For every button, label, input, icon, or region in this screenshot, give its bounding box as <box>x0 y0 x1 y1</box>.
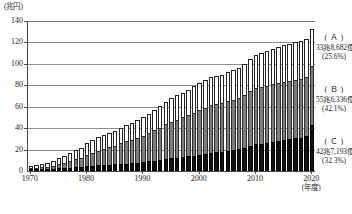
x-axis-tick-mark <box>255 171 256 174</box>
bar-segment-a <box>220 75 225 103</box>
bar-segment-c <box>68 168 73 171</box>
bar-segment-c <box>226 151 231 171</box>
bar-segment-b <box>107 147 112 165</box>
bar-segment-c <box>57 168 62 171</box>
legend-item-b: ( Ｂ ) 55兆6,336億円 (42.1%) <box>316 85 352 113</box>
legend-a-percent: (25.6%) <box>316 52 352 61</box>
bar <box>276 47 281 171</box>
bar-segment-b <box>141 136 146 162</box>
bar-segment-a <box>175 95 180 120</box>
y-axis-tick-mark <box>24 107 28 108</box>
bar-segment-b <box>169 122 174 159</box>
bar-segment-b <box>181 117 186 157</box>
legend-a-value: 33兆8,682億円 <box>316 43 352 52</box>
bar <box>96 137 101 171</box>
bar-segment-b <box>102 149 107 165</box>
bar-segment-c <box>293 138 298 171</box>
bar-segment-a <box>282 45 287 82</box>
y-axis-tick-mark <box>24 150 28 151</box>
bar-segment-b <box>164 124 169 159</box>
bar-segment-b <box>265 86 270 143</box>
bar <box>197 83 202 171</box>
bar-segment-a <box>96 137 101 150</box>
y-axis-tick-mark <box>24 128 28 129</box>
bar-segment-c <box>169 158 174 171</box>
bar <box>231 70 236 171</box>
bar-segment-c <box>254 144 259 171</box>
bar-segment-c <box>164 159 169 171</box>
y-axis-tick-mark <box>24 42 28 43</box>
bar-segment-c <box>265 143 270 171</box>
bar-series-container <box>28 21 315 171</box>
bar-segment-a <box>254 55 259 88</box>
y-axis-unit-label: (兆円) <box>4 2 23 11</box>
y-axis-tick-label: 140 <box>1 17 23 25</box>
y-axis-tick-mark <box>24 21 28 22</box>
bar-segment-b <box>220 103 225 152</box>
y-axis-tick-mark <box>24 85 28 86</box>
bar-segment-b <box>254 88 259 144</box>
bar-segment-a <box>192 86 197 112</box>
bar-segment-c <box>248 146 253 171</box>
bar-segment-a <box>102 135 107 149</box>
legend-b-value: 55兆6,336億円 <box>316 95 352 104</box>
bar-segment-c <box>141 162 146 171</box>
bar <box>186 90 191 171</box>
bar-segment-a <box>231 70 236 99</box>
bar-segment-c <box>214 152 219 171</box>
bar <box>237 68 242 171</box>
bar-segment-b <box>242 95 247 148</box>
bar-segment-c <box>271 142 276 171</box>
bar-segment-c <box>40 169 45 171</box>
bar-segment-b <box>231 100 236 151</box>
bar <box>57 158 62 171</box>
bar <box>181 93 186 171</box>
bar-segment-c <box>113 164 118 171</box>
bar-segment-b <box>271 84 276 141</box>
bar-segment-a <box>271 49 276 84</box>
bar-segment-c <box>130 163 135 171</box>
bar-segment-a <box>107 133 112 147</box>
bar-segment-b <box>74 159 79 167</box>
legend-b-key: ( Ｂ ) <box>316 85 352 95</box>
bar <box>248 59 253 171</box>
bar-segment-c <box>158 160 163 171</box>
bar-segment-c <box>192 156 197 171</box>
bar-segment-b <box>197 110 202 155</box>
legend-item-a: ( Ａ ) 33兆8,682億円 (25.6%) <box>316 33 352 61</box>
x-axis-tick-label: 1990 <box>134 174 150 183</box>
bar-segment-a <box>226 72 231 101</box>
bar-segment-a <box>186 90 191 115</box>
x-axis-tick-label: 1980 <box>78 174 94 183</box>
bar <box>164 102 169 171</box>
bar-segment-c <box>299 138 304 171</box>
bar-segment-a <box>113 131 118 145</box>
x-axis-tick-mark <box>199 171 200 174</box>
bar <box>124 125 129 171</box>
y-axis-tick-label: 100 <box>1 60 23 68</box>
bar-segment-c <box>181 157 186 171</box>
bar <box>40 164 45 171</box>
bar-segment-a <box>287 44 292 81</box>
bar <box>147 114 152 171</box>
bar-segment-a <box>90 140 95 152</box>
bar <box>107 133 112 171</box>
bar-segment-c <box>147 161 152 171</box>
bar-segment-a <box>259 53 264 87</box>
bar <box>169 98 174 171</box>
x-axis-tick-label: 1970 <box>22 174 38 183</box>
bar <box>85 143 90 171</box>
bar-segment-a <box>237 68 242 98</box>
legend-a-key: ( Ａ ) <box>316 33 352 43</box>
bar-segment-b <box>85 155 90 166</box>
bar-segment-b <box>282 82 287 140</box>
bar-segment-a <box>147 114 152 133</box>
bar-segment-b <box>276 83 281 141</box>
y-axis-tick-label: 80 <box>1 81 23 89</box>
bar-segment-b <box>287 81 292 139</box>
bar <box>242 64 247 171</box>
legend-b-percent: (42.1%) <box>316 104 352 113</box>
bar-segment-a <box>62 156 67 163</box>
bar-segment-b <box>90 153 95 166</box>
bar <box>175 95 180 171</box>
